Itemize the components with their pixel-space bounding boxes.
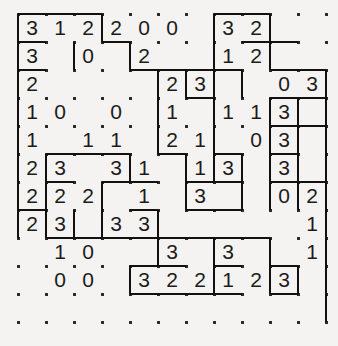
grid-cell-empty[interactable] xyxy=(130,126,158,154)
grid-cell-empty[interactable] xyxy=(158,42,186,70)
grid-cell-empty[interactable] xyxy=(130,294,158,322)
grid-cell-empty[interactable] xyxy=(158,210,186,238)
grid-cell-empty[interactable] xyxy=(270,210,298,238)
grid-cell-empty[interactable] xyxy=(242,238,270,266)
grid-cell-clue[interactable]: 0 xyxy=(130,14,158,42)
grid-cell-empty[interactable] xyxy=(158,154,186,182)
grid-cell-empty[interactable] xyxy=(298,42,326,70)
grid-cell-empty[interactable] xyxy=(158,182,186,210)
grid-cell-clue[interactable]: 1 xyxy=(130,182,158,210)
grid-cell-clue[interactable]: 1 xyxy=(46,14,74,42)
grid-cell-clue[interactable]: 3 xyxy=(46,154,74,182)
grid-cell-clue[interactable]: 3 xyxy=(270,154,298,182)
grid-cell-empty[interactable] xyxy=(298,98,326,126)
grid-cell-clue[interactable]: 0 xyxy=(74,238,102,266)
grid-cell-clue[interactable]: 2 xyxy=(46,182,74,210)
grid-cell-clue[interactable]: 2 xyxy=(130,42,158,70)
grid-cell-clue[interactable]: 3 xyxy=(158,238,186,266)
grid-cell-empty[interactable] xyxy=(158,294,186,322)
grid-cell-clue[interactable]: 0 xyxy=(46,98,74,126)
grid-cell-empty[interactable] xyxy=(214,70,242,98)
grid-cell-empty[interactable] xyxy=(102,238,130,266)
grid-cell-clue[interactable]: 1 xyxy=(214,98,242,126)
grid-cell-empty[interactable] xyxy=(298,154,326,182)
grid-cell-empty[interactable] xyxy=(46,126,74,154)
grid-cell-empty[interactable] xyxy=(214,294,242,322)
grid-cell-empty[interactable] xyxy=(102,294,130,322)
grid-cell-clue[interactable]: 3 xyxy=(102,154,130,182)
grid-cell-empty[interactable] xyxy=(186,238,214,266)
grid-cell-empty[interactable] xyxy=(298,294,326,322)
grid-cell-empty[interactable] xyxy=(242,182,270,210)
grid-cell-empty[interactable] xyxy=(186,294,214,322)
grid-cell-clue[interactable]: 2 xyxy=(298,182,326,210)
grid-cell-clue[interactable]: 1 xyxy=(242,98,270,126)
grid-cell-clue[interactable]: 1 xyxy=(158,98,186,126)
grid-cell-empty[interactable] xyxy=(18,238,46,266)
grid-cell-clue[interactable]: 0 xyxy=(46,266,74,294)
grid-cell-empty[interactable] xyxy=(74,70,102,98)
grid-cell-empty[interactable] xyxy=(214,210,242,238)
grid-cell-empty[interactable] xyxy=(74,210,102,238)
grid-cell-clue[interactable]: 0 xyxy=(270,182,298,210)
grid-cell-empty[interactable] xyxy=(186,210,214,238)
grid-cell-empty[interactable] xyxy=(214,182,242,210)
grid-cell-clue[interactable]: 3 xyxy=(214,238,242,266)
grid-cell-clue[interactable]: 1 xyxy=(18,126,46,154)
grid-cell-empty[interactable] xyxy=(18,266,46,294)
grid-cell-clue[interactable]: 2 xyxy=(18,210,46,238)
grid-cell-clue[interactable]: 2 xyxy=(158,266,186,294)
grid-cell-clue[interactable]: 2 xyxy=(242,266,270,294)
grid-cell-empty[interactable] xyxy=(298,14,326,42)
grid-cell-clue[interactable]: 1 xyxy=(46,238,74,266)
grid-cell-clue[interactable]: 2 xyxy=(74,14,102,42)
grid-cell-empty[interactable] xyxy=(74,98,102,126)
grid-cell-empty[interactable] xyxy=(46,70,74,98)
grid-cell-clue[interactable]: 2 xyxy=(158,70,186,98)
grid-cell-clue[interactable]: 0 xyxy=(242,126,270,154)
grid-cell-clue[interactable]: 3 xyxy=(186,182,214,210)
grid-cell-empty[interactable] xyxy=(242,70,270,98)
grid-cell-clue[interactable]: 3 xyxy=(270,266,298,294)
grid-cell-empty[interactable] xyxy=(74,294,102,322)
grid-cell-clue[interactable]: 0 xyxy=(270,70,298,98)
grid-cell-empty[interactable] xyxy=(270,294,298,322)
grid-cell-empty[interactable] xyxy=(130,70,158,98)
grid-cell-clue[interactable]: 3 xyxy=(18,42,46,70)
grid-cell-empty[interactable] xyxy=(46,294,74,322)
grid-cell-empty[interactable] xyxy=(102,70,130,98)
grid-cell-clue[interactable]: 2 xyxy=(18,154,46,182)
grid-cell-clue[interactable]: 3 xyxy=(186,70,214,98)
grid-cell-clue[interactable]: 3 xyxy=(130,210,158,238)
grid-cell-clue[interactable]: 1 xyxy=(18,98,46,126)
grid-cell-clue[interactable]: 0 xyxy=(74,42,102,70)
grid-cell-empty[interactable] xyxy=(214,126,242,154)
grid-cell-clue[interactable]: 0 xyxy=(74,266,102,294)
grid-cell-clue[interactable]: 1 xyxy=(298,210,326,238)
grid-cell-clue[interactable]: 1 xyxy=(74,126,102,154)
grid-cell-empty[interactable] xyxy=(298,266,326,294)
grid-cell-clue[interactable]: 1 xyxy=(130,154,158,182)
grid-cell-empty[interactable] xyxy=(270,14,298,42)
grid-cell-clue[interactable]: 2 xyxy=(242,42,270,70)
grid-cell-empty[interactable] xyxy=(298,126,326,154)
grid-cell-clue[interactable]: 2 xyxy=(242,14,270,42)
grid-cell-clue[interactable]: 1 xyxy=(186,126,214,154)
grid-cell-clue[interactable]: 2 xyxy=(158,126,186,154)
grid-cell-clue[interactable]: 3 xyxy=(270,98,298,126)
puzzle-grid[interactable]: 3122003230212223031001113111210323311332… xyxy=(0,0,338,346)
grid-cell-clue[interactable]: 1 xyxy=(298,238,326,266)
grid-cell-empty[interactable] xyxy=(242,154,270,182)
grid-cell-empty[interactable] xyxy=(242,210,270,238)
grid-cell-clue[interactable]: 1 xyxy=(214,42,242,70)
grid-cell-empty[interactable] xyxy=(74,154,102,182)
grid-cell-empty[interactable] xyxy=(130,238,158,266)
grid-cell-empty[interactable] xyxy=(18,294,46,322)
grid-cell-empty[interactable] xyxy=(186,42,214,70)
grid-cell-clue[interactable]: 3 xyxy=(102,210,130,238)
grid-cell-empty[interactable] xyxy=(270,238,298,266)
grid-cell-empty[interactable] xyxy=(242,294,270,322)
grid-cell-clue[interactable]: 3 xyxy=(298,70,326,98)
grid-cell-clue[interactable]: 1 xyxy=(186,154,214,182)
grid-cell-clue[interactable]: 3 xyxy=(214,154,242,182)
